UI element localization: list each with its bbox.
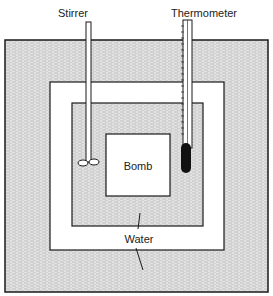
thermometer xyxy=(181,20,192,173)
label-thermometer: Thermometer xyxy=(171,7,237,19)
calorimeter-diagram: Stirrer Thermometer Bomb Water xyxy=(0,0,273,296)
thermometer-bulb xyxy=(181,143,191,173)
label-stirrer: Stirrer xyxy=(58,7,88,19)
label-water: Water xyxy=(125,233,154,245)
label-bomb: Bomb xyxy=(124,160,153,172)
stirrer-shaft xyxy=(86,22,91,162)
